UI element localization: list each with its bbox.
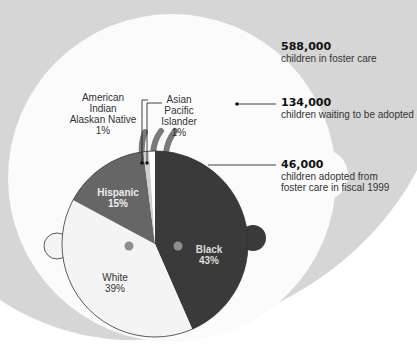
american-indian-line1: American Indian <box>68 92 138 114</box>
adopted-label-1: children adopted from <box>281 171 389 182</box>
adopted-value: 46,000 <box>281 159 389 171</box>
foster-care-annotation: 588,000 children in foster care <box>281 41 377 64</box>
adopted-label-2: foster care in fiscal 1999 <box>281 182 389 193</box>
waiting-annotation: 134,000 children waiting to be adopted <box>281 97 414 120</box>
asian-line1: Asian <box>146 94 212 105</box>
hispanic-name: Hispanic <box>93 187 143 198</box>
left-eye <box>125 242 134 251</box>
hispanic-pct: 15% <box>93 198 143 209</box>
foster-label: children in foster care <box>281 53 377 64</box>
hispanic-label: Hispanic 15% <box>93 187 143 209</box>
black-pct: 43% <box>189 255 229 266</box>
asian-pct: 1% <box>146 127 212 138</box>
white-name: White <box>95 272 135 283</box>
right-eye <box>174 242 183 251</box>
american-indian-line2: Alaskan Native <box>68 114 138 125</box>
foster-care-infographic: 588,000 children in foster care 134,000 … <box>0 0 417 360</box>
white-label: White 39% <box>95 272 135 294</box>
black-name: Black <box>189 244 229 255</box>
waiting-label: children waiting to be adopted <box>281 109 414 120</box>
white-pct: 39% <box>95 283 135 294</box>
american-indian-pct: 1% <box>68 125 138 136</box>
adopted-annotation: 46,000 children adopted from foster care… <box>281 159 389 193</box>
waiting-value: 134,000 <box>281 97 414 109</box>
waiting-dot <box>235 102 239 106</box>
black-label: Black 43% <box>189 244 229 266</box>
asian-label: Asian Pacific Islander 1% <box>146 94 212 138</box>
am-indian-dot <box>140 161 144 165</box>
american-indian-label: American Indian Alaskan Native 1% <box>68 92 138 136</box>
asian-line2: Pacific Islander <box>146 105 212 127</box>
asian-dot <box>145 161 149 165</box>
foster-value: 588,000 <box>281 41 377 53</box>
